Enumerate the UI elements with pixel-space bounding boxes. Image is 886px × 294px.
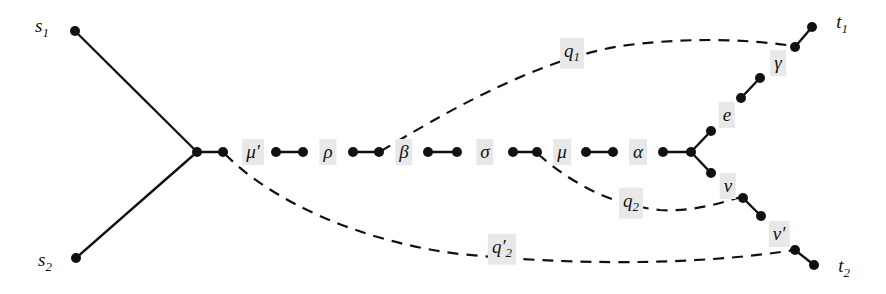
edge-label-q1: q1 bbox=[560, 38, 584, 69]
terminal-label-t1: t1 bbox=[836, 12, 848, 36]
edge-label-nu-prime: ν′ bbox=[769, 221, 790, 247]
graph-node bbox=[423, 147, 433, 157]
graph-node bbox=[807, 22, 817, 32]
graph-node bbox=[608, 147, 618, 157]
terminal-label-s1: s1 bbox=[35, 16, 49, 40]
edge-label-beta: β bbox=[395, 139, 412, 165]
graph-node bbox=[71, 253, 81, 263]
graph-node bbox=[532, 147, 542, 157]
graph-node bbox=[790, 42, 800, 52]
graph-canvas bbox=[0, 0, 886, 294]
graph-node bbox=[706, 168, 716, 178]
solid-edge-layer bbox=[75, 27, 814, 265]
graph-edge bbox=[76, 152, 197, 258]
graph-edge bbox=[75, 31, 197, 152]
terminal-label-s2: s2 bbox=[38, 250, 52, 274]
edge-label-gamma: γ bbox=[770, 50, 786, 76]
graph-node bbox=[298, 147, 308, 157]
graph-node bbox=[706, 126, 716, 136]
edge-label-e: e bbox=[719, 102, 735, 128]
dashed-edge-q1 bbox=[381, 40, 793, 151]
graph-node bbox=[686, 147, 696, 157]
edge-label-rho: ρ bbox=[319, 139, 336, 165]
edge-label-alpha: α bbox=[629, 139, 647, 165]
graph-node bbox=[192, 147, 202, 157]
terminal-label-t2: t2 bbox=[838, 256, 850, 280]
edge-label-nu: ν bbox=[720, 173, 736, 199]
graph-node bbox=[348, 147, 358, 157]
graph-node bbox=[218, 147, 228, 157]
edge-label-sigma: σ bbox=[476, 139, 493, 165]
graph-node bbox=[70, 26, 80, 36]
graph-node bbox=[738, 193, 748, 203]
edge-label-mu: μ bbox=[553, 139, 571, 165]
graph-node bbox=[755, 73, 765, 83]
edge-label-q2-prime: q′2 bbox=[488, 234, 516, 265]
graph-node bbox=[756, 211, 766, 221]
edge-label-mu-prime: μ′ bbox=[242, 139, 264, 165]
node-layer bbox=[70, 22, 819, 270]
graph-node bbox=[790, 245, 800, 255]
graph-node bbox=[452, 147, 462, 157]
graph-figure: μ′ρβσμαeγνν′q1q2q′2 s1s2t1t2 bbox=[0, 0, 886, 294]
edge-label-q2: q2 bbox=[619, 188, 643, 219]
graph-node bbox=[581, 147, 591, 157]
graph-node bbox=[658, 147, 668, 157]
graph-node bbox=[374, 147, 384, 157]
graph-node bbox=[809, 260, 819, 270]
graph-node bbox=[271, 147, 281, 157]
graph-node bbox=[736, 93, 746, 103]
graph-node bbox=[508, 147, 518, 157]
